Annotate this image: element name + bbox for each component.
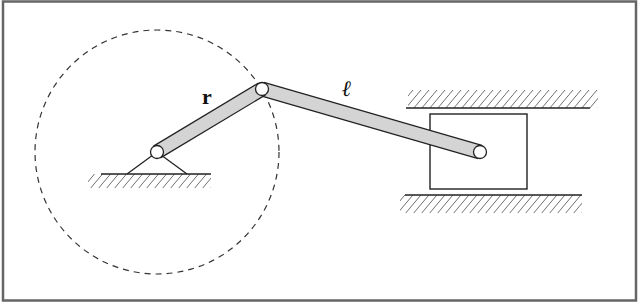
ground-hatch <box>88 174 211 188</box>
lower-guide-rail <box>400 195 582 213</box>
fixed-pivot-pin <box>151 146 164 159</box>
frame-border <box>3 2 636 301</box>
slider-crank-diagram <box>0 0 644 305</box>
crank-label-r: r <box>202 84 212 110</box>
piston-pin <box>474 146 487 159</box>
crank-pin <box>256 83 269 96</box>
upper-guide-rail <box>406 90 598 108</box>
rod-label-l: ℓ <box>342 76 351 102</box>
